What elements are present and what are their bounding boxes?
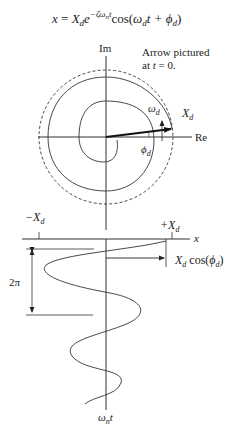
phasor-diagram: Im Re Arrow pictured at t = 0. ωd Xd ϕd xyxy=(38,42,210,230)
initial-value-label: Xd cos(ϕd) xyxy=(174,253,224,269)
pos-amplitude-label: +Xd xyxy=(160,218,180,234)
damped-response-curve xyxy=(44,241,166,404)
note-text: Arrow pictured xyxy=(142,46,210,58)
phasor-arrow xyxy=(106,129,171,137)
amplitude-label: Xd xyxy=(181,106,194,122)
time-axis-label: ωnt xyxy=(98,411,114,426)
im-axis-label: Im xyxy=(99,42,112,54)
note-text-line2: at t = 0. xyxy=(142,59,176,71)
re-axis-label: Re xyxy=(195,131,207,143)
phase-label: ϕd xyxy=(141,143,152,158)
spiral-trajectory xyxy=(48,77,172,191)
neg-amplitude-label: −Xd xyxy=(25,210,45,226)
period-label: 2π xyxy=(9,276,21,288)
damped-vibration-diagram: x = Xde−ζωntcos(ωdt + ϕd) Im Re Arrow pi… xyxy=(0,0,234,426)
x-axis-label: x xyxy=(193,232,199,244)
equation: x = Xde−ζωntcos(ωdt + ϕd) xyxy=(51,9,181,28)
omega-d-label: ωd xyxy=(148,102,161,117)
period-arrow-top-icon xyxy=(30,250,35,256)
time-response-plot: −Xd +Xd x 2π Xd cos(ϕd) ωnt xyxy=(9,210,224,426)
